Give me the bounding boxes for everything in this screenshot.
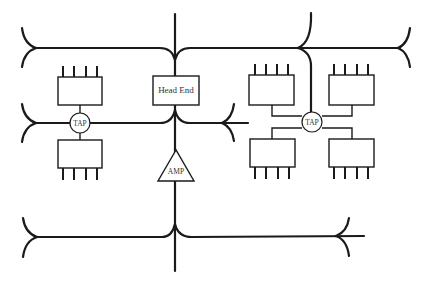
head-end-label: Head End bbox=[158, 85, 194, 95]
subscriber-box bbox=[58, 77, 102, 105]
split-bot-right-upper bbox=[336, 218, 349, 236]
mid-left-branch bbox=[36, 110, 175, 123]
mid-right-branch bbox=[175, 110, 248, 123]
subscriber-box bbox=[58, 140, 102, 168]
right-drop-upper bbox=[298, 13, 311, 48]
subscriber-box bbox=[249, 75, 294, 105]
split-bot-right-lower bbox=[336, 236, 349, 256]
bot-left-branch bbox=[37, 224, 175, 237]
split-bot-left-lower bbox=[23, 237, 37, 257]
split-bot-left-upper bbox=[23, 218, 37, 237]
tap-right-line bbox=[322, 128, 352, 139]
split-top-left-upper bbox=[22, 28, 36, 48]
top-right-branch bbox=[175, 48, 400, 60]
top-left-branch bbox=[36, 48, 175, 60]
split-top-left-lower bbox=[22, 48, 36, 67]
subscriber-box bbox=[329, 75, 374, 105]
subscriber-pins bbox=[334, 167, 368, 179]
tap-right-line bbox=[322, 105, 352, 116]
split-mid-left-upper bbox=[22, 104, 36, 123]
split-mid-right-lower bbox=[222, 123, 234, 141]
bottom-feeder bbox=[23, 218, 364, 257]
split-top-right-upper bbox=[398, 28, 410, 48]
amplifier-label: AMP bbox=[168, 167, 184, 176]
amplifier: AMP bbox=[158, 150, 194, 181]
subscriber-pins bbox=[255, 64, 288, 75]
amplifier-triangle-icon bbox=[158, 150, 194, 181]
split-mid-left-lower bbox=[22, 123, 36, 142]
cable-network-diagram: Head End AMP TAP bbox=[0, 0, 429, 284]
subscriber-box bbox=[329, 139, 374, 167]
subscriber-pins bbox=[255, 167, 289, 179]
subscriber-pins bbox=[63, 168, 97, 180]
tap-right-label: TAP bbox=[305, 118, 319, 127]
head-end: Head End bbox=[153, 76, 199, 105]
right-drop-to-tap bbox=[298, 48, 311, 112]
tap-right-line bbox=[272, 105, 302, 116]
middle-feeder bbox=[22, 104, 248, 142]
tap-left-label: TAP bbox=[73, 119, 87, 128]
subscriber-pins bbox=[334, 64, 368, 75]
subscriber-pins bbox=[63, 66, 97, 77]
split-top-right-lower bbox=[398, 48, 410, 67]
subscriber-box bbox=[250, 139, 295, 167]
split-mid-right-upper bbox=[222, 104, 234, 123]
tap-right-line bbox=[272, 128, 302, 139]
